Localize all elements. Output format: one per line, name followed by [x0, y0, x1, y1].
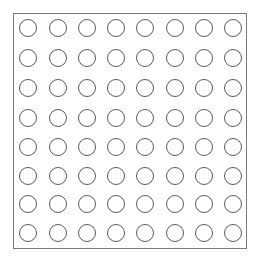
- circle-cell-r6-c5[interactable]: [136, 167, 154, 185]
- circle-cell-r5-c6[interactable]: [166, 138, 184, 156]
- circle-cell-r1-c8[interactable]: [224, 19, 242, 37]
- circle-cell-r4-c5[interactable]: [136, 109, 154, 127]
- circle-cell-r3-c6[interactable]: [166, 79, 184, 97]
- circle-cell-r3-c5[interactable]: [136, 79, 154, 97]
- circle-cell-r7-c6[interactable]: [166, 195, 184, 213]
- circle-cell-r3-c3[interactable]: [78, 79, 96, 97]
- circle-cell-r7-c5[interactable]: [136, 195, 154, 213]
- circle-cell-r5-c8[interactable]: [224, 138, 242, 156]
- circle-cell-r8-c6[interactable]: [166, 224, 184, 242]
- circle-cell-r1-c2[interactable]: [49, 19, 67, 37]
- circle-cell-r5-c5[interactable]: [136, 138, 154, 156]
- circle-cell-r2-c5[interactable]: [136, 49, 154, 67]
- circle-cell-r6-c6[interactable]: [166, 167, 184, 185]
- circle-cell-r7-c8[interactable]: [224, 195, 242, 213]
- circle-cell-r8-c1[interactable]: [19, 224, 37, 242]
- circle-cell-r2-c8[interactable]: [224, 49, 242, 67]
- circle-cell-r5-c7[interactable]: [195, 138, 213, 156]
- circle-cell-r7-c7[interactable]: [195, 195, 213, 213]
- circle-cell-r4-c8[interactable]: [224, 109, 242, 127]
- circle-cell-r2-c7[interactable]: [195, 49, 213, 67]
- circle-cell-r1-c3[interactable]: [78, 19, 96, 37]
- circle-cell-r4-c2[interactable]: [49, 109, 67, 127]
- circle-cell-r8-c2[interactable]: [49, 224, 67, 242]
- circle-cell-r6-c3[interactable]: [78, 167, 96, 185]
- circle-cell-r2-c4[interactable]: [107, 49, 125, 67]
- circle-cell-r1-c7[interactable]: [195, 19, 213, 37]
- circle-cell-r4-c4[interactable]: [107, 109, 125, 127]
- circle-cell-r2-c1[interactable]: [19, 49, 37, 67]
- circle-cell-r5-c1[interactable]: [19, 138, 37, 156]
- circle-cell-r3-c1[interactable]: [19, 79, 37, 97]
- circle-cell-r5-c2[interactable]: [49, 138, 67, 156]
- circle-cell-r3-c8[interactable]: [224, 79, 242, 97]
- circle-cell-r8-c8[interactable]: [224, 224, 242, 242]
- circle-cell-r7-c3[interactable]: [78, 195, 96, 213]
- circle-cell-r5-c3[interactable]: [78, 138, 96, 156]
- circle-cell-r8-c7[interactable]: [195, 224, 213, 242]
- circle-cell-r1-c4[interactable]: [107, 19, 125, 37]
- circle-cell-r4-c7[interactable]: [195, 109, 213, 127]
- circle-cell-r3-c4[interactable]: [107, 79, 125, 97]
- circle-cell-r6-c2[interactable]: [49, 167, 67, 185]
- circle-cell-r6-c1[interactable]: [19, 167, 37, 185]
- circle-cell-r1-c6[interactable]: [166, 19, 184, 37]
- circle-cell-r4-c3[interactable]: [78, 109, 96, 127]
- circle-cell-r8-c5[interactable]: [136, 224, 154, 242]
- circle-cell-r8-c3[interactable]: [78, 224, 96, 242]
- circle-cell-r3-c7[interactable]: [195, 79, 213, 97]
- circle-cell-r2-c3[interactable]: [78, 49, 96, 67]
- circle-cell-r2-c2[interactable]: [49, 49, 67, 67]
- circle-cell-r5-c4[interactable]: [107, 138, 125, 156]
- circle-cell-r1-c5[interactable]: [136, 19, 154, 37]
- circle-cell-r4-c1[interactable]: [19, 109, 37, 127]
- circle-cell-r6-c4[interactable]: [107, 167, 125, 185]
- circle-cell-r3-c2[interactable]: [49, 79, 67, 97]
- circle-cell-r2-c6[interactable]: [166, 49, 184, 67]
- circle-cell-r8-c4[interactable]: [107, 224, 125, 242]
- circle-cell-r1-c1[interactable]: [19, 19, 37, 37]
- circle-cell-r4-c6[interactable]: [166, 109, 184, 127]
- circle-cell-r6-c8[interactable]: [224, 167, 242, 185]
- circle-cell-r7-c2[interactable]: [49, 195, 67, 213]
- circle-cell-r7-c4[interactable]: [107, 195, 125, 213]
- circle-cell-r6-c7[interactable]: [195, 167, 213, 185]
- circle-cell-r7-c1[interactable]: [19, 195, 37, 213]
- grid-frame: [13, 13, 247, 249]
